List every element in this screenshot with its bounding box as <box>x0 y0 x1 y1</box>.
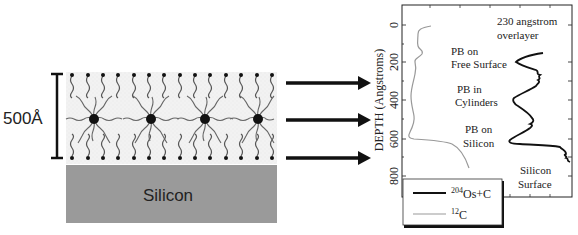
arrow-right-icon <box>286 151 371 165</box>
annotation-cylinders-line1: PB in <box>457 83 482 95</box>
annotation-on-silicon-line2: Silicon <box>463 137 495 149</box>
substrate-label: Silicon <box>143 186 193 205</box>
y-tick-labels: 0 200 400 600 800 <box>387 22 401 185</box>
annotation-cylinders-line2: Cylinders <box>455 96 498 108</box>
annotation-free-surface-line1: PB on <box>451 45 479 57</box>
annotation-silicon-surface-line2: Surface <box>518 178 552 190</box>
annotation-overlayer-line1: 230 angstrom <box>497 15 558 27</box>
y-tick-label: 200 <box>387 53 401 71</box>
depth-profile-chart: 0 200 400 600 800 DEPTH (Angstroms) 230 … <box>372 5 572 228</box>
annotation-overlayer-line2: overlayer <box>497 29 539 41</box>
y-tick-label: 800 <box>387 167 401 185</box>
y-tick-label: 600 <box>387 130 401 148</box>
annotation-on-silicon-line1: PB on <box>465 123 493 135</box>
legend-text: C <box>459 208 467 222</box>
mapping-arrows <box>286 76 371 165</box>
y-tick-label: 400 <box>387 91 401 109</box>
annotation-silicon-surface-line1: Silicon <box>520 164 552 176</box>
schematic: 500Å <box>3 72 277 223</box>
y-tick-label: 0 <box>387 22 401 28</box>
legend-text: Os+C <box>463 187 491 201</box>
thickness-bracket <box>51 74 63 158</box>
annotation-free-surface-line2: Free Surface <box>451 58 507 70</box>
thickness-label: 500Å <box>3 109 43 128</box>
figure: 500Å <box>0 0 578 235</box>
legend: 204Os+C 12C <box>403 179 504 228</box>
y-axis-title: DEPTH (Angstroms) <box>372 49 386 151</box>
arrow-right-icon <box>286 113 371 127</box>
arrow-right-icon <box>286 76 371 90</box>
legend-sup: 204 <box>451 186 463 195</box>
legend-sup: 12 <box>451 207 459 216</box>
